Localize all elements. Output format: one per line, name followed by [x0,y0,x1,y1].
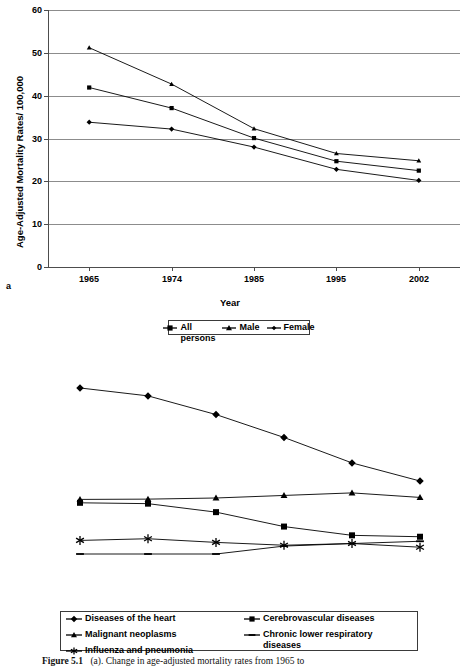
series-chronic-lower-respiratory-diseases [76,540,424,555]
legend-label: Chronic lower respiratory diseases [263,629,373,651]
chart-panel-b: Age-adjusted Rates/ 100,000 010020030040… [0,340,475,590]
legend-swatch [244,614,260,627]
legend-item: Malignant neoplasms [66,629,244,643]
series-malignant-neoplasms [77,489,424,502]
figure-caption: Figure 5.1 (a). Change in age-adjusted m… [42,655,442,667]
legend-marker-triangle [66,630,82,640]
legend-label: Cerebrovascular diseases [263,613,375,624]
legend-marker-square [244,614,260,624]
legend-swatch [66,614,82,627]
panel-b-legend: Diseases of the heartMalignant neoplasms… [60,611,418,651]
panel-b-series-layer [0,0,475,668]
legend-swatch [244,630,260,643]
legend-swatch [66,630,82,643]
legend-item: Cerebrovascular diseases [244,613,412,627]
legend-marker-diamond [66,614,82,624]
caption-label: Figure 5.1 [42,656,83,666]
series-cerebrovascular-diseases [77,500,423,540]
series-diseases-of-the-heart [76,384,424,485]
legend-marker-dash [244,630,260,640]
legend-label: Malignant neoplasms [85,629,177,640]
legend-item: Diseases of the heart [66,613,244,627]
legend-item: Chronic lower respiratory diseases [244,629,412,651]
caption-text: (a). Change in age-adjusted mortality ra… [90,656,304,666]
legend-label: Diseases of the heart [85,613,176,624]
figure-container: Age-Adjusted Mortality Rates/ 100,000 01… [0,0,475,668]
